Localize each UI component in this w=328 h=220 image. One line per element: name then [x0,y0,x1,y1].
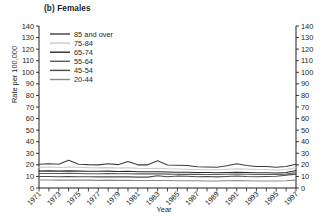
y-tick-label: 100 [22,68,34,77]
y-tick-label-right: 10 [301,172,309,181]
x-tick-label: 1977 [85,190,103,208]
legend-label-4: 45-54 [74,66,93,75]
series-line-5 [39,180,296,181]
x-tick-label: 1973 [45,190,63,208]
x-tick-label: 1979 [104,190,122,208]
y-tick-label-right: 130 [301,33,313,42]
y-tick-label-right: 50 [301,126,309,135]
y-tick-label-right: 140 [301,22,313,31]
x-tick-label: 1991 [223,190,241,208]
y-tick-label-right: 70 [301,103,309,112]
x-tick-label: 1971 [25,190,43,208]
series-line-0 [39,160,296,167]
legend-label-5: 20-44 [74,75,93,84]
legend-label-1: 75-84 [74,39,93,48]
y-tick-label-right: 110 [301,56,313,65]
x-tick-label: 1993 [243,190,261,208]
y-tick-label: 80 [26,91,34,100]
y-tick-label: 40 [26,137,34,146]
y-tick-label-right: 100 [301,68,313,77]
y-tick-label-right: 60 [301,114,309,123]
x-tick-label: 1995 [262,190,280,208]
y-tick-label: 0 [30,184,34,193]
y-tick-label: 110 [22,56,34,65]
y-tick-label: 140 [22,22,34,31]
y-tick-label-right: 20 [301,160,309,169]
x-tick-label: 1985 [164,190,182,208]
plot-area: 0010102020303040405050606070708080909010… [0,0,328,220]
x-tick-label: 1975 [65,190,83,208]
y-tick-label-right: 40 [301,137,309,146]
y-tick-label-right: 0 [301,184,305,193]
y-tick-label: 70 [26,103,34,112]
x-tick-label: 1981 [124,190,142,208]
x-tick-label: 1983 [144,190,162,208]
legend-label-2: 65-74 [74,48,93,57]
x-tick-label: 1987 [183,190,201,208]
y-tick-label: 60 [26,114,34,123]
y-tick-label: 130 [22,33,34,42]
legend-label-3: 55-64 [74,57,93,66]
y-tick-label: 20 [26,160,34,169]
y-tick-label: 50 [26,126,34,135]
y-tick-label: 30 [26,149,34,158]
series-line-2 [39,170,296,173]
x-tick-label: 1989 [203,190,221,208]
y-tick-label-right: 120 [301,45,313,54]
x-tick-label: 1997 [282,190,300,208]
y-tick-label-right: 90 [301,79,309,88]
chart-container: (b) Females Rate per 100,000 Year 001010… [0,0,328,220]
y-tick-label: 90 [26,79,34,88]
legend-label-0: 85 and over [74,30,114,39]
y-tick-label: 10 [26,172,34,181]
y-tick-label: 120 [22,45,34,54]
series-line-1 [39,167,296,170]
y-tick-label-right: 80 [301,91,309,100]
y-tick-label-right: 30 [301,149,309,158]
